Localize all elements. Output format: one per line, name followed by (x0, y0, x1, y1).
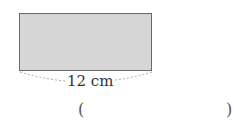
width-label: 12 cm (66, 73, 114, 89)
answer-close-paren: ) (226, 101, 232, 119)
dimension-arc (0, 0, 234, 140)
answer-open-paren: ( (78, 101, 84, 119)
